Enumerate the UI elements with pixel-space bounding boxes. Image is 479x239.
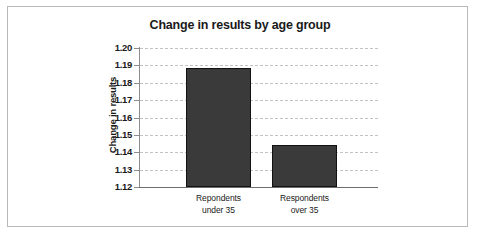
gridline [140,118,378,119]
y-axis-tick-mark [134,100,139,101]
y-axis-tick-label: 1.17 [104,95,132,105]
x-axis-category-label: Repondentsunder 35 [174,193,264,216]
plot-area [140,48,378,187]
chart-figure: Change in results by age group Change in… [0,0,479,239]
y-axis-tick-label: 1.15 [104,130,132,140]
gridline [140,65,378,66]
y-axis-tick-label: 1.12 [104,182,132,192]
y-axis-tick-label: 1.14 [104,147,132,157]
y-axis-tick-label: 1.16 [104,113,132,123]
y-axis-tick-mark [134,48,139,49]
bar [186,68,251,187]
x-axis-category-label: Respondentsover 35 [260,193,350,216]
gridline [140,135,378,136]
gridline [140,170,378,171]
y-axis-tick-label: 1.19 [104,60,132,70]
x-axis-baseline [139,187,378,188]
y-axis-tick-mark [134,118,139,119]
bar [272,145,337,187]
y-axis-tick-label: 1.13 [104,165,132,175]
gridline [140,83,378,84]
y-axis-tick-label: 1.18 [104,78,132,88]
chart-title: Change in results by age group [60,18,420,32]
gridline [140,48,378,49]
gridline [140,152,378,153]
y-axis-tick-mark [134,83,139,84]
category-label-line: Respondents [260,193,350,205]
y-axis-tick-mark [134,187,139,188]
y-axis-tick-mark [134,65,139,66]
category-label-line: over 35 [260,205,350,217]
category-label-line: under 35 [174,205,264,217]
y-axis-tick-label: 1.20 [104,43,132,53]
gridline [140,100,378,101]
y-axis-tick-mark [134,152,139,153]
y-axis-tick-mark [134,170,139,171]
y-axis-tick-mark [134,135,139,136]
category-label-line: Repondents [174,193,264,205]
